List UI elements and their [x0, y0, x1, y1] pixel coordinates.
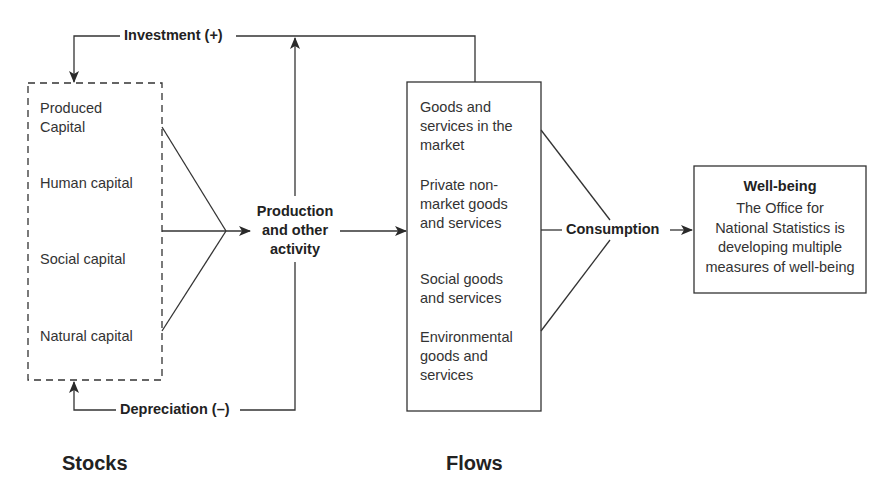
flows-section-title: Flows — [446, 452, 503, 475]
consumption-node: Consumption — [566, 220, 659, 239]
flow-private-line3: and services — [420, 214, 508, 233]
stock-produced-line1: Produced — [40, 99, 102, 118]
wellbeing-title: Well-being — [694, 177, 866, 196]
flow-environmental-goods: Environmental goods and services — [420, 328, 513, 385]
flow-private-nonmarket: Private non- market goods and services — [420, 176, 508, 233]
flow-market-line3: market — [420, 136, 513, 155]
converge-line-bottom — [162, 231, 226, 331]
flows-converge-top — [541, 130, 610, 220]
stocks-section-title: Stocks — [62, 452, 128, 475]
stock-social-capital: Social capital — [40, 250, 125, 269]
investment-line-right — [236, 36, 475, 82]
flow-private-line2: market goods — [420, 195, 508, 214]
flow-env-line1: Environmental — [420, 328, 513, 347]
converge-line-top — [162, 127, 226, 231]
depreciation-label: Depreciation (–) — [116, 401, 234, 417]
stock-produced-line2: Capital — [40, 118, 102, 137]
flow-social-goods: Social goods and services — [420, 270, 503, 308]
flow-private-line1: Private non- — [420, 176, 508, 195]
flow-env-line2: goods and — [420, 347, 513, 366]
flow-env-line3: services — [420, 366, 513, 385]
flow-market-line1: Goods and — [420, 98, 513, 117]
stocks-flows-wellbeing-diagram: Investment (+) Depreciation (–) Produced… — [0, 0, 888, 494]
flow-market-goods: Goods and services in the market — [420, 98, 513, 155]
investment-arrow — [74, 36, 122, 82]
flow-market-line2: services in the — [420, 117, 513, 136]
depreciation-arrow — [74, 382, 118, 410]
flow-social-line1: Social goods — [420, 270, 503, 289]
flows-converge-bottom — [541, 240, 610, 331]
wellbeing-line1: The Office for — [694, 199, 866, 219]
production-line3: activity — [245, 240, 345, 259]
stock-natural-capital: Natural capital — [40, 327, 133, 346]
stock-human-capital: Human capital — [40, 174, 133, 193]
depreciation-line-right — [240, 262, 295, 410]
production-line1: Production — [245, 202, 345, 221]
flow-social-line2: and services — [420, 289, 503, 308]
wellbeing-description: The Office for National Statistics is de… — [694, 199, 866, 277]
wellbeing-line4: measures of well-being — [694, 258, 866, 278]
wellbeing-line2: National Statistics is — [694, 219, 866, 239]
investment-label: Investment (+) — [120, 27, 227, 43]
wellbeing-line3: developing multiple — [694, 238, 866, 258]
stock-produced-capital: Produced Capital — [40, 99, 102, 137]
production-line2: and other — [245, 221, 345, 240]
production-node: Production and other activity — [245, 202, 345, 259]
